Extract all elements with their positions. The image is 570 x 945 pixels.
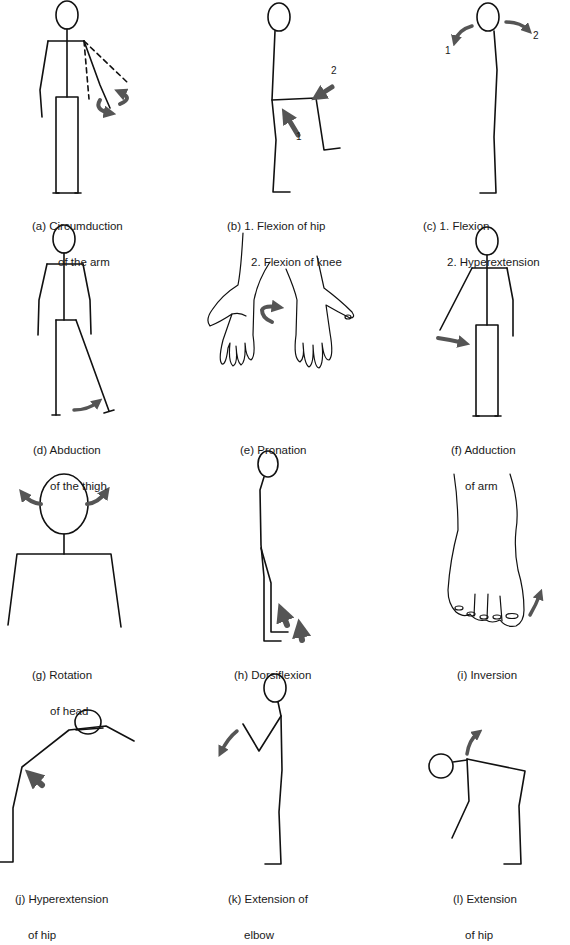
caption-k: (k) Extension of elbow — [228, 869, 308, 945]
caption-c: (c) 1. Flexion 2. Hyperextension — [423, 196, 540, 280]
figure-b-flexion-hip-knee — [268, 3, 340, 192]
caption-g: (g) Rotation of head — [32, 645, 92, 729]
figure-c-flexion-hyperextension — [455, 3, 528, 193]
figure-a-circumduction — [40, 1, 128, 193]
figure-h-dorsiflexion — [258, 451, 302, 641]
caption-a: (a) Circumduction of the arm — [32, 196, 123, 280]
figure-k-extension-elbow — [221, 674, 286, 864]
caption-l: (l) Extension of hip — [453, 869, 517, 945]
marker-c-1: 1 — [445, 45, 451, 56]
marker-b-1: 1 — [296, 131, 302, 142]
caption-e: (e) Pronation — [240, 420, 306, 468]
caption-i: (i) Inversion — [457, 645, 517, 693]
caption-j: (j) Hyperextension of hip — [15, 869, 108, 945]
figure-l-extension-hip — [429, 733, 525, 864]
caption-f: (f) Adduction of arm — [451, 420, 516, 504]
caption-b: (b) 1. Flexion of hip 2. Flexion of knee — [227, 196, 342, 280]
figure-j-hyperextension-hip — [0, 710, 134, 862]
caption-h: (h) Dorsiflexion — [234, 645, 311, 693]
marker-c-2: 2 — [533, 30, 539, 41]
caption-d: (d) Abduction of the thigh — [33, 420, 107, 504]
marker-b-2: 2 — [331, 65, 337, 76]
